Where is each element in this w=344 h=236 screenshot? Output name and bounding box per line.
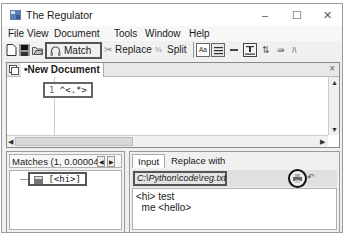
app-window: The Regulator – ☐ ✕ File View Document T… bbox=[1, 3, 343, 233]
toolbar-separator bbox=[193, 42, 194, 58]
split-button[interactable]: Split bbox=[167, 43, 186, 57]
match-item[interactable]: [<hi>] bbox=[28, 172, 87, 186]
app-icon bbox=[10, 10, 21, 20]
document-icon bbox=[9, 65, 19, 75]
match-item-label: [<hi>] bbox=[48, 174, 81, 184]
file-path: C:\Python\code\reg.txt bbox=[137, 173, 226, 183]
replace-button[interactable]: Replace bbox=[115, 43, 152, 57]
matches-next-icon[interactable]: ▶ bbox=[107, 156, 115, 167]
open-file-button[interactable] bbox=[288, 169, 307, 188]
multiline-toggle[interactable] bbox=[211, 43, 225, 57]
menu-window[interactable]: Window bbox=[145, 28, 181, 39]
split-icon: ⅓ bbox=[155, 43, 162, 57]
scroll-down-icon[interactable]: ▼ bbox=[331, 126, 338, 133]
dash-icon[interactable] bbox=[230, 49, 238, 51]
match-icon bbox=[34, 176, 43, 184]
close-button[interactable]: ✕ bbox=[312, 6, 342, 24]
horizontal-scroll-thumb[interactable] bbox=[15, 137, 133, 146]
menu-view[interactable]: View bbox=[27, 28, 49, 39]
matches-prev-icon[interactable]: ◀ bbox=[97, 156, 105, 167]
document-window: •New Document × 1 ^<.*> ▲ ▼ ◀ ▶ bbox=[6, 62, 340, 148]
scroll-up-icon[interactable]: ▲ bbox=[331, 79, 338, 86]
undo-icon[interactable]: ↶ bbox=[307, 172, 315, 182]
matches-tree: [<hi>] bbox=[9, 170, 122, 230]
tab-input[interactable]: Input bbox=[132, 154, 165, 168]
pattern-editor-line[interactable]: 1 ^<.*> bbox=[43, 82, 93, 98]
title-bar: The Regulator – ☐ ✕ bbox=[2, 4, 342, 26]
input-line: <hi> test bbox=[136, 191, 333, 202]
matches-header: Matches (1, 0.000042 s bbox=[9, 154, 122, 168]
window-title: The Regulator bbox=[26, 9, 93, 21]
match-case-label: Aa bbox=[199, 46, 207, 53]
maximize-button[interactable]: ☐ bbox=[282, 6, 312, 24]
whitespace-toggle[interactable] bbox=[243, 43, 257, 57]
headphones-icon bbox=[50, 45, 61, 57]
arrow-right-icon[interactable]: ⇛ bbox=[277, 43, 285, 57]
wrap-icon[interactable]: ⇅ bbox=[262, 43, 270, 57]
menu-file[interactable]: File bbox=[8, 28, 24, 39]
match-button[interactable]: Match bbox=[45, 42, 102, 59]
characters-icon[interactable]: ﾊ bbox=[292, 43, 297, 57]
toolbar: Match ✂ Replace ⅓ Split Aa ⇅ ⇛ ﾊ bbox=[2, 41, 342, 59]
menu-help[interactable]: Help bbox=[189, 28, 210, 39]
open-folder-icon[interactable] bbox=[32, 44, 43, 56]
text-box-icon bbox=[245, 45, 255, 55]
new-file-icon[interactable] bbox=[6, 44, 17, 56]
document-close-icon[interactable]: × bbox=[329, 63, 335, 74]
tab-replace-with[interactable]: Replace with bbox=[166, 154, 230, 168]
input-text-area[interactable]: <hi> test me <hello> bbox=[132, 188, 337, 230]
input-panel: Input Replace with C:\Python\code\reg.tx… bbox=[129, 151, 340, 233]
matches-panel: Matches (1, 0.000042 s ◀ ▶ [<hi>] bbox=[6, 151, 125, 233]
scroll-left-icon[interactable]: ◀ bbox=[8, 138, 13, 146]
line-number: 1 bbox=[49, 85, 54, 95]
document-tab-strip: •New Document × bbox=[7, 63, 339, 77]
vertical-scrollbar[interactable]: ▲ ▼ bbox=[328, 77, 339, 135]
scroll-right-icon[interactable]: ▶ bbox=[320, 138, 325, 146]
printer-icon bbox=[293, 174, 302, 183]
replace-icon: ✂ bbox=[104, 43, 112, 57]
minimize-button[interactable]: – bbox=[250, 6, 280, 24]
input-line: me <hello> bbox=[136, 202, 333, 213]
save-icon[interactable] bbox=[19, 44, 30, 56]
lines-icon bbox=[214, 46, 223, 55]
menu-document[interactable]: Document bbox=[54, 28, 100, 39]
menu-bar: File View Document Tools Window Help bbox=[2, 26, 342, 41]
horizontal-scrollbar[interactable]: ◀ ▶ bbox=[7, 135, 328, 147]
file-path-field[interactable]: C:\Python\code\reg.txt bbox=[133, 171, 227, 186]
match-case-toggle[interactable]: Aa bbox=[196, 43, 210, 57]
document-tab[interactable]: •New Document bbox=[21, 63, 104, 77]
tree-connector bbox=[20, 179, 28, 180]
menu-tools[interactable]: Tools bbox=[114, 28, 137, 39]
match-label: Match bbox=[64, 44, 91, 57]
regex-pattern[interactable]: ^<.*> bbox=[60, 85, 87, 95]
